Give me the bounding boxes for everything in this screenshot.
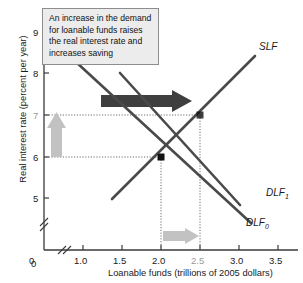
equilibrium-point-initial (158, 154, 165, 161)
slf-label: SLF (259, 41, 278, 52)
x-tick-label-2.5: 2.5 (191, 255, 204, 266)
y-tick-label-9: 9 (33, 27, 38, 38)
x-tick-label-3.0: 3.0 (230, 255, 243, 266)
x-tick-label-2.0: 2.0 (152, 255, 165, 266)
loanable-funds-chart: Real interest rate (percent per year) (0, 0, 303, 283)
annotation-callout: An increase in the demand for loanable f… (42, 8, 159, 65)
y-tick-label-7: 7 (33, 110, 38, 121)
slf-curve (112, 56, 255, 199)
y-tick-label-5: 5 (33, 193, 38, 204)
y-tick-label-8: 8 (33, 68, 38, 79)
dlf1-label: DLF1 (266, 187, 289, 200)
interest-rate-rise-arrow-icon (47, 112, 66, 157)
x-axis-ticks (83, 245, 278, 250)
x-axis-title: Loanable funds (trillions of 2005 dollar… (108, 268, 273, 278)
y-tick-label-6: 6 (33, 152, 38, 163)
dlf0-label: DLF0 (246, 217, 269, 230)
saving-increase-arrow-icon (163, 228, 199, 244)
dlf0-curve (120, 73, 240, 205)
x-tick-label-1.0: 1.0 (74, 255, 87, 266)
x-tick-label-3.5: 3.5 (269, 255, 282, 266)
equilibrium-point-new (197, 112, 204, 119)
x-tick-label-1.5: 1.5 (113, 255, 126, 266)
y-tick-label-0: 0 (31, 258, 36, 269)
